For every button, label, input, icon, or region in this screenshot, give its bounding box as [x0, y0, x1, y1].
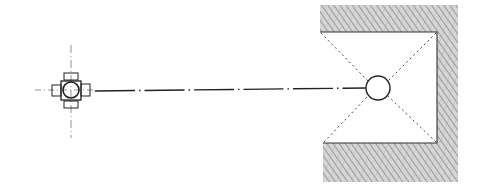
- diagonal-bottom-left: [324, 96, 368, 142]
- diagonal-top-left: [321, 33, 368, 81]
- cross-fixture-symbol: [35, 45, 95, 138]
- dash-dot-connector: [95, 88, 366, 91]
- diagram-canvas: [0, 0, 484, 192]
- plan-drawing: [0, 0, 484, 192]
- lug-left: [52, 85, 61, 96]
- cavity-circle: [366, 76, 390, 100]
- diagonal-top-right: [388, 33, 436, 81]
- connector-line: [95, 88, 366, 91]
- diagonal-bottom-right: [388, 96, 436, 142]
